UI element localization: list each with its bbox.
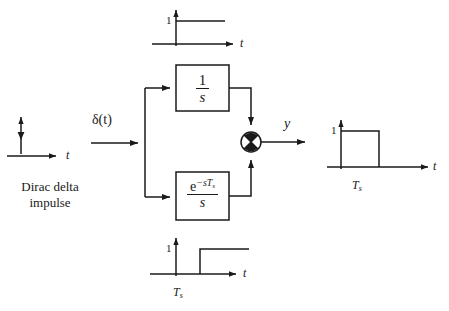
output-plot-tick-label: 1: [331, 125, 337, 136]
integrator-block-label: 1 s: [176, 72, 229, 106]
output-plot-ts-sub: s: [359, 184, 362, 193]
output-signal-label: y: [284, 117, 290, 131]
impulse-weight-arrowhead: [18, 132, 25, 140]
wire-delayed-integrator-to-summer: [229, 160, 251, 196]
bottom-plot-ts-sub: s: [180, 291, 183, 300]
bottom-delayed-step-trace: [200, 249, 249, 274]
output-plot-axis-label: t: [433, 160, 436, 172]
bottom-plot-axis-label: t: [243, 267, 246, 279]
output-plot-pulse-end-label: Ts: [352, 179, 362, 193]
input-signal-label: δ(t): [92, 113, 112, 127]
exp-exponent: −sT: [196, 177, 212, 188]
output-plot-ts-base: T: [352, 178, 359, 192]
bottom-plot-step-time-label: Ts: [173, 286, 183, 300]
integrator-numerator: 1: [196, 72, 210, 88]
dirac-caption-line1: Dirac delta: [0, 180, 110, 195]
output-pulse-plot-axes: [327, 120, 428, 169]
delayed-integrator-block-label: e−sTs s: [176, 178, 229, 211]
bottom-plot-tick-label: 1: [166, 243, 172, 254]
bottom-plot-ts-base: T: [173, 285, 180, 299]
block-diagram-canvas: t Dirac delta impulse δ(t) 1 t 1 t Ts 1 …: [0, 0, 449, 311]
top-plot-tick-label: 1: [166, 15, 172, 26]
bottom-step-plot-axes: [150, 238, 236, 276]
dirac-impulse-plot-axes: [7, 117, 56, 156]
exp-exponent-subscript: s: [212, 182, 215, 190]
integrator-denominator: s: [196, 88, 210, 105]
top-step-plot-axes: [152, 10, 233, 46]
wire-integrator-to-summer: [229, 88, 251, 125]
dirac-caption-line2: impulse: [0, 196, 110, 211]
delta-symbol: δ(t): [92, 112, 112, 127]
output-pulse-trace: [341, 131, 379, 167]
delayed-integrator-numerator: e−sTs: [187, 178, 218, 194]
delayed-integrator-denominator: s: [187, 194, 218, 210]
top-plot-axis-label: t: [240, 37, 243, 49]
dirac-plot-axis-label: t: [66, 149, 69, 161]
